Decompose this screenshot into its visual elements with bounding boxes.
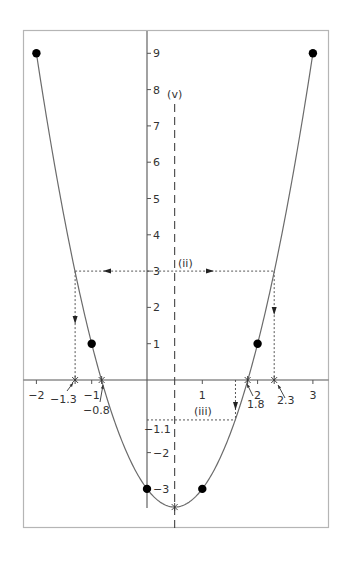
arrow-right-icon <box>206 269 214 274</box>
data-point <box>88 340 96 348</box>
axes <box>24 31 329 508</box>
y-tick-label: 1 <box>153 338 160 351</box>
data-point <box>198 485 206 493</box>
x-value-label: 2.3 <box>277 394 295 407</box>
annotation-iii-label: (iii) <box>194 405 212 418</box>
data-point <box>309 49 317 57</box>
y-tick-label: −3 <box>153 483 169 496</box>
x-tick-label: 3 <box>309 389 316 402</box>
root-label: 1.8 <box>247 398 265 411</box>
y-tick-label: −2 <box>153 447 169 460</box>
y-tick-label: 8 <box>153 84 160 97</box>
arrow-down-icon <box>272 307 277 315</box>
arrow-left-icon <box>103 269 111 274</box>
y-tick-label: 2 <box>153 301 160 314</box>
annotation-labels: −2−1123987654321−2−3(v)(ii)(iii)−1.1−1.3… <box>28 47 316 496</box>
y-tick-label: 6 <box>153 156 160 169</box>
symmetry-label: (v) <box>167 88 182 101</box>
data-point <box>32 49 40 57</box>
y-tick-label: 9 <box>153 47 160 60</box>
x-tick-label: −2 <box>28 389 44 402</box>
x-value-label: −1.3 <box>50 393 77 406</box>
quadratic-graph: −2−1123987654321−2−3(v)(ii)(iii)−1.1−1.3… <box>0 0 346 564</box>
y-tick-label: 4 <box>153 229 160 242</box>
y-tick-label: 3 <box>153 265 160 278</box>
x-tick-label: −1 <box>84 389 100 402</box>
data-point <box>253 340 261 348</box>
data-point <box>143 485 151 493</box>
root-label: −0.8 <box>83 404 110 417</box>
y-value-label: −1.1 <box>144 423 171 436</box>
annotation-ii-label: (ii) <box>178 257 193 270</box>
y-tick-label: 7 <box>153 120 160 133</box>
x-tick-label: 1 <box>199 389 206 402</box>
arrow-down-icon <box>233 402 238 410</box>
arrow-down-icon <box>73 316 78 324</box>
y-tick-label: 5 <box>153 193 160 206</box>
plot-frame <box>24 31 329 528</box>
